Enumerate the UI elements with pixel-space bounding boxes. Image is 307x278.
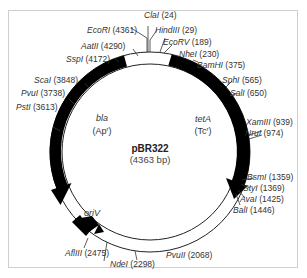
- oriV-label: oriV: [84, 208, 101, 218]
- site-label: ScaI (3848): [34, 75, 78, 85]
- site-label: PstI (3613): [16, 102, 58, 112]
- site-label: NruI (974): [245, 128, 283, 138]
- site-label: SalI (650): [230, 88, 267, 98]
- site-label: NdeI (2298): [110, 259, 155, 269]
- bla-label: bla: [96, 113, 108, 123]
- plasmid-name: pBR322: [131, 143, 169, 154]
- site-label: XamIII (939): [245, 117, 293, 127]
- site-label: PvuII (2068): [166, 250, 212, 260]
- site-label: BsmI (1359): [247, 172, 293, 182]
- bla-resistance-label: (Apr): [92, 126, 111, 136]
- site-label: NheI (230): [179, 49, 219, 59]
- site-label: EcoRV (189): [163, 37, 212, 47]
- site-label: StyI (1369): [243, 183, 285, 193]
- site-label: SspI (4172): [66, 54, 110, 64]
- site-label: SphI (565): [222, 75, 262, 85]
- site-label: AatII (4290): [80, 41, 126, 51]
- site-label: HindIII (29): [155, 25, 197, 35]
- plasmid-map: ClaI (24) HindIII (29) EcoRV (189) NheI …: [0, 0, 307, 278]
- site-label: PvuI (3738): [21, 88, 65, 98]
- site-label: AvaI (1425): [239, 194, 284, 204]
- site-label: BamHI (375): [197, 60, 245, 70]
- oriV-block: [72, 215, 104, 236]
- tetA-resistance-label: (Tcr): [195, 126, 212, 136]
- site-label: AflIII (2475): [64, 248, 109, 258]
- site-label: EcoRI (4361): [87, 25, 137, 35]
- site-label: BalI (1446): [233, 205, 275, 215]
- plasmid-size: (4363 bp): [130, 154, 171, 165]
- tetA-label: tetA: [195, 114, 211, 124]
- gene-labels: bla (Apr) tetA (Tcr) oriV: [84, 113, 212, 218]
- site-label: ClaI (24): [144, 10, 177, 20]
- plasmid-title: pBR322 (4363 bp): [130, 143, 171, 165]
